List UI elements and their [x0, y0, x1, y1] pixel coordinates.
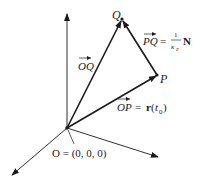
origin-point [65, 126, 69, 130]
svg-text:N: N [183, 35, 191, 47]
label-OP: OP = r ( t 0 ) [117, 99, 167, 116]
point-Q [120, 17, 123, 20]
svg-text:PQ: PQ [142, 35, 158, 47]
label-Q: Q [112, 8, 121, 22]
vector-PQ [123, 21, 157, 75]
label-OQ: OQ [78, 58, 94, 72]
svg-text:=: = [135, 101, 141, 113]
svg-text:P: P [175, 47, 179, 52]
svg-text:OP: OP [117, 101, 132, 113]
origin-leader-line [68, 130, 74, 144]
vector-diagram: Q P OQ PQ = 1 κ P N OP = r ( t 0 ) O = (… [0, 0, 198, 188]
svg-text:κ: κ [171, 43, 175, 51]
svg-text:1: 1 [174, 31, 178, 39]
point-P [155, 73, 158, 76]
svg-text:): ) [163, 101, 167, 114]
label-P: P [159, 72, 168, 86]
label-PQ: PQ = 1 κ P N [142, 31, 191, 52]
svg-text:=: = [160, 35, 166, 47]
label-origin-coords: O = (0, 0, 0) [52, 147, 107, 160]
svg-text:OQ: OQ [78, 60, 94, 72]
